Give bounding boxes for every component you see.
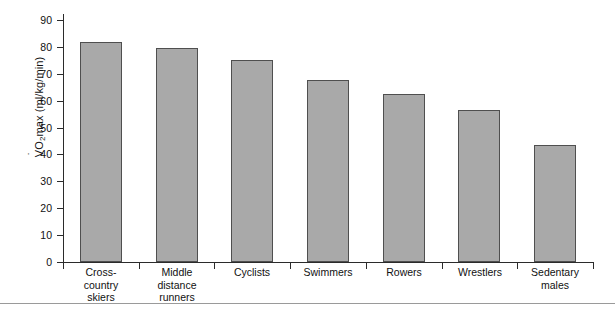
bar	[307, 80, 349, 262]
x-axis-category-label: Sedentarymales	[517, 266, 593, 291]
y-axis-tick-label: 70	[18, 69, 52, 80]
y-axis-tick	[57, 101, 64, 102]
bottom-divider	[0, 303, 615, 304]
y-axis-tick	[57, 128, 64, 129]
y-axis-tick-label: 80	[18, 42, 52, 53]
category-label-line: Wrestlers	[442, 266, 518, 279]
y-axis-tick	[57, 181, 64, 182]
y-axis-tick-label: 0	[18, 257, 52, 268]
category-label-line: skiers	[63, 291, 139, 304]
category-label-line: Middle	[139, 266, 215, 279]
bar	[458, 110, 500, 262]
bar	[231, 60, 273, 262]
y-axis-tick	[57, 47, 64, 48]
x-axis-category-label: Swimmers	[290, 266, 366, 279]
x-axis-category-label: Wrestlers	[442, 266, 518, 279]
bar	[383, 94, 425, 262]
x-axis-category-label: Cyclists	[214, 266, 290, 279]
x-axis-line	[63, 262, 593, 263]
category-label-line: runners	[139, 291, 215, 304]
category-label-line: Rowers	[366, 266, 442, 279]
y-axis-tick-label: 30	[18, 176, 52, 187]
bar	[80, 42, 122, 262]
category-label-line: Swimmers	[290, 266, 366, 279]
category-label-line: country	[63, 279, 139, 292]
y-axis-tick-label: 20	[18, 203, 52, 214]
vo2max-bar-chart: VO2max (ml/kg/min) 0102030405060708090 C…	[0, 0, 615, 314]
category-label-line: distance	[139, 279, 215, 292]
y-axis-line	[63, 14, 64, 263]
category-label-line: males	[517, 279, 593, 292]
x-axis-category-label: Rowers	[366, 266, 442, 279]
category-label-line: Sedentary	[517, 266, 593, 279]
y-axis-tick-label: 10	[18, 230, 52, 241]
y-axis-tick	[57, 154, 64, 155]
y-axis-title-subscript: 2	[38, 137, 47, 142]
category-label-line: Cyclists	[214, 266, 290, 279]
y-axis-tick	[57, 20, 64, 21]
y-axis-tick	[57, 235, 64, 236]
x-axis-category-label: Cross-countryskiers	[63, 266, 139, 304]
bar	[156, 48, 198, 262]
y-axis-tick-label: 90	[18, 15, 52, 26]
y-axis-tick	[57, 208, 64, 209]
y-axis-tick-label: 40	[18, 149, 52, 160]
y-axis-tick-label: 60	[18, 96, 52, 107]
y-axis-tick-label: 50	[18, 123, 52, 134]
x-axis-tick	[593, 262, 594, 269]
category-label-line: Cross-	[63, 266, 139, 279]
x-axis-category-label: Middledistancerunners	[139, 266, 215, 304]
y-axis-tick	[57, 74, 64, 75]
bar	[534, 145, 576, 262]
